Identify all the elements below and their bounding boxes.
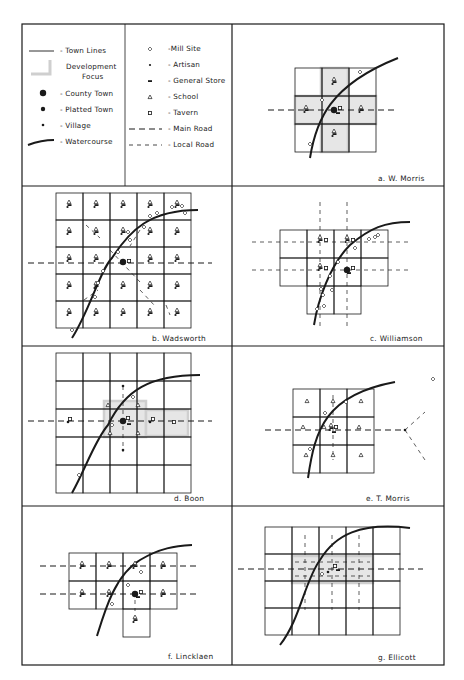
artisan-icon [120, 206, 122, 208]
legend-label-general-store: - General Store [168, 76, 226, 85]
mill-site-icon [170, 205, 174, 209]
mill-site-icon [180, 204, 184, 208]
artisan-icon [93, 233, 95, 235]
town-cell [280, 230, 307, 258]
tavern-icon [139, 590, 142, 593]
general-store-icon [162, 565, 166, 567]
town-cell [307, 258, 334, 286]
caption-ellicott: g. Ellicott [378, 653, 416, 662]
legend-label-town-lines: - Town Lines [60, 46, 106, 55]
general-store-icon [127, 423, 131, 425]
caption-boon: d. Boon [174, 494, 204, 503]
school-icon [67, 281, 71, 285]
general-store-icon [148, 80, 152, 82]
artisan-icon [331, 83, 333, 85]
general-store-icon [360, 109, 364, 111]
general-store-icon [122, 285, 126, 287]
general-store-icon [330, 427, 334, 429]
town-cell [265, 527, 292, 554]
town-cell [56, 381, 83, 409]
tavern-icon [334, 425, 337, 428]
school-icon [94, 227, 98, 231]
artisan-icon [147, 314, 149, 316]
artisan-icon [66, 233, 68, 235]
town-cell [293, 445, 320, 473]
artisan-icon [120, 314, 122, 316]
school-icon [148, 200, 152, 204]
tavern-icon [68, 417, 71, 420]
tavern-icon [333, 564, 336, 567]
town-cell [110, 353, 137, 381]
artisan-icon [93, 260, 95, 262]
general-store-icon [95, 312, 99, 314]
school-icon [329, 423, 333, 427]
town-cell [319, 527, 346, 554]
town-cell [265, 554, 292, 581]
legend-label-county-town: - County Town [60, 89, 113, 98]
mill-site-icon [70, 328, 74, 332]
artisan-icon [106, 595, 108, 597]
artisan-icon [358, 111, 360, 113]
mill-site-icon [128, 238, 132, 242]
school-icon [121, 227, 125, 231]
town-cell [334, 230, 361, 258]
town-cell [137, 247, 164, 274]
artisan-icon [120, 287, 122, 289]
general-store-icon [336, 569, 340, 571]
town-cell [56, 220, 83, 247]
general-store-icon [176, 231, 180, 233]
mill-site-icon [431, 377, 435, 381]
town-cell [293, 389, 320, 417]
watercourse-icon [28, 140, 54, 145]
school-icon [175, 281, 179, 285]
caption-lincklaen: f. Lincklaen [168, 652, 213, 661]
map-g [238, 527, 423, 645]
school-icon [67, 227, 71, 231]
town-cell [346, 581, 373, 608]
school-icon [357, 425, 361, 429]
watercourse [314, 222, 410, 325]
school-icon [107, 589, 111, 593]
town-cell [110, 193, 137, 220]
town-cell [373, 554, 400, 581]
general-store-icon [95, 204, 99, 206]
general-store-icon [68, 204, 72, 206]
school-icon [148, 308, 152, 312]
map-d [28, 353, 212, 493]
general-store-icon [122, 204, 126, 206]
school-icon [94, 308, 98, 312]
town-cell [56, 247, 83, 274]
school-icon [161, 561, 165, 565]
local-road [405, 430, 425, 460]
school-icon [305, 399, 309, 403]
local-road [140, 290, 155, 306]
artisan-icon [66, 260, 68, 262]
local-road [166, 305, 170, 315]
school-icon [94, 200, 98, 204]
town-cell [83, 193, 110, 220]
artisan-icon [147, 233, 149, 235]
town-cell [164, 274, 191, 301]
school-icon [133, 615, 137, 619]
village-icon [122, 449, 125, 452]
mill-site-icon [308, 142, 312, 146]
general-store-icon [68, 231, 72, 233]
town-cell [334, 286, 361, 314]
town-cell [346, 527, 373, 554]
legend-label-mill-site: -Mill Site [168, 44, 201, 53]
mill-site-icon [323, 411, 327, 415]
general-store-icon [347, 272, 351, 274]
town-cell [265, 608, 292, 635]
general-store-icon [95, 258, 99, 260]
town-cell [265, 581, 292, 608]
artisan-icon [147, 260, 149, 262]
town-cell [164, 193, 191, 220]
general-store-icon [68, 258, 72, 260]
town-cell [292, 527, 319, 554]
town-cell [83, 465, 110, 493]
town-cell [83, 220, 110, 247]
school-icon [175, 254, 179, 258]
town-cell [292, 608, 319, 635]
legend-label-development-focus: Development [66, 62, 117, 71]
artisan-icon [66, 287, 68, 289]
